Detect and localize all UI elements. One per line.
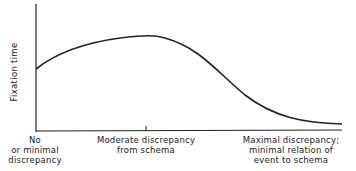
x-axis <box>36 130 342 131</box>
x-tick-label-moderate: Moderate discrepancy from schema <box>91 135 201 155</box>
x-tick-label-maximal: Maximal discrepancy; minimal relation of… <box>226 135 356 165</box>
y-axis-label: Fixation time <box>3 40 25 104</box>
fixation-curve <box>36 36 342 124</box>
x-tick-label-none: No or minimal discrepancy <box>0 135 70 165</box>
